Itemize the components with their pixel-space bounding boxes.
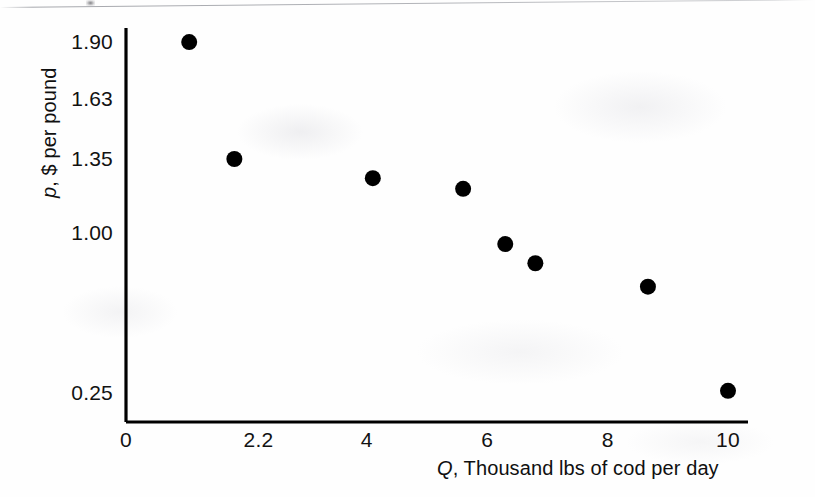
plot-canvas [0,0,815,497]
x-tick-label: 6 [481,428,493,452]
data-point [455,181,471,197]
data-point [640,279,656,295]
scatter-plot-figure: 0.251.001.351.631.90 02.246810 Q, Thousa… [0,0,815,497]
y-axis-title-rest: , $ per pound [38,68,60,187]
x-tick-label: 2.2 [244,428,274,452]
data-point [720,383,736,399]
x-tick-label: 0 [120,428,132,452]
y-tick-label: 1.90 [0,30,113,54]
x-axis-title-rest: , Thousand lbs of cod per day [453,457,719,479]
x-tick-label: 8 [602,428,614,452]
data-point [497,236,513,252]
data-point-group [181,34,736,399]
x-axis-variable: Q [437,457,453,479]
y-axis-variable: p [38,187,60,198]
data-point [226,151,242,167]
data-point [365,170,381,186]
x-axis-title: Q, Thousand lbs of cod per day [437,457,719,480]
y-tick-label: 0.25 [0,381,113,405]
x-tick-label: 10 [716,428,740,452]
data-point [181,34,197,50]
y-tick-label: 1.00 [0,221,113,245]
y-axis-title: p, $ per pound [38,68,61,198]
x-tick-label: 4 [361,428,373,452]
data-point [527,255,543,271]
